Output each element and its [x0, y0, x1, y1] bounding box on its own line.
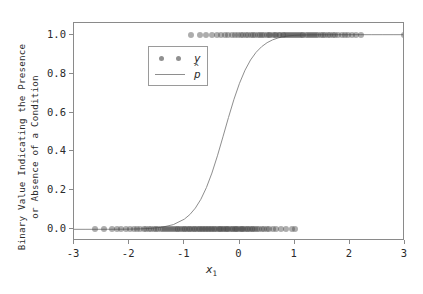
x-tick: [128, 240, 129, 244]
x-tick-label: -2: [122, 247, 135, 259]
y-tick: [69, 73, 73, 74]
y-axis-label: Binary Value Indicating the Presence or …: [15, 27, 41, 267]
scatter-point: [188, 32, 194, 38]
y-tick-label: 1.0: [47, 28, 66, 40]
legend: y ^p: [148, 46, 208, 86]
x-tick: [294, 240, 295, 244]
predicted-probability-curve: [74, 23, 403, 239]
y-tick: [69, 34, 73, 35]
y-tick-label: 0.4: [47, 144, 66, 156]
y-axis-label-line-1: Binary Value Indicating the Presence: [15, 27, 28, 267]
scatter-point: [358, 32, 364, 38]
y-tick-label: 0.8: [47, 67, 66, 79]
legend-marker-handle: [153, 56, 187, 61]
data-layer: [74, 23, 403, 239]
legend-dot-icon: [159, 56, 164, 61]
scatter-point: [401, 32, 403, 38]
y-tick-label: 0.2: [47, 183, 66, 195]
x-tick-label: -1: [177, 247, 190, 259]
y-axis-label-line-2: or Absence of a Condition: [28, 27, 41, 267]
y-tick-label: 0.0: [47, 222, 66, 234]
x-axis-label-base: x: [206, 263, 213, 276]
y-tick: [69, 189, 73, 190]
x-tick-label: 1: [290, 247, 296, 259]
scatter-point: [197, 32, 203, 38]
legend-item-prediction: ^p: [153, 66, 201, 82]
y-tick: [69, 228, 73, 229]
logistic-regression-figure: Binary Value Indicating the Presence or …: [0, 0, 423, 294]
x-tick-label: 0: [235, 247, 241, 259]
x-tick-label: 2: [346, 247, 352, 259]
legend-line-icon: [155, 74, 185, 75]
x-tick-label: 3: [401, 247, 407, 259]
legend-line-handle: [153, 74, 187, 75]
legend-hat-accent: ^: [194, 63, 199, 72]
y-tick: [69, 150, 73, 151]
x-tick: [239, 240, 240, 244]
y-tick: [69, 112, 73, 113]
x-axis-label-subscript: 1: [213, 269, 218, 278]
legend-label-p-hat: ^p: [187, 68, 201, 81]
x-tick: [404, 240, 405, 244]
y-tick-label: 0.6: [47, 106, 66, 118]
plot-area: y ^p: [73, 22, 404, 240]
x-axis-label: x1: [0, 263, 423, 278]
x-tick: [349, 240, 350, 244]
scatter-point: [292, 226, 298, 232]
scatter-point: [101, 226, 107, 232]
legend-dot-icon: [176, 56, 181, 61]
x-tick: [73, 240, 74, 244]
scatter-point: [92, 226, 98, 232]
x-tick-label: -3: [67, 247, 80, 259]
x-tick: [183, 240, 184, 244]
